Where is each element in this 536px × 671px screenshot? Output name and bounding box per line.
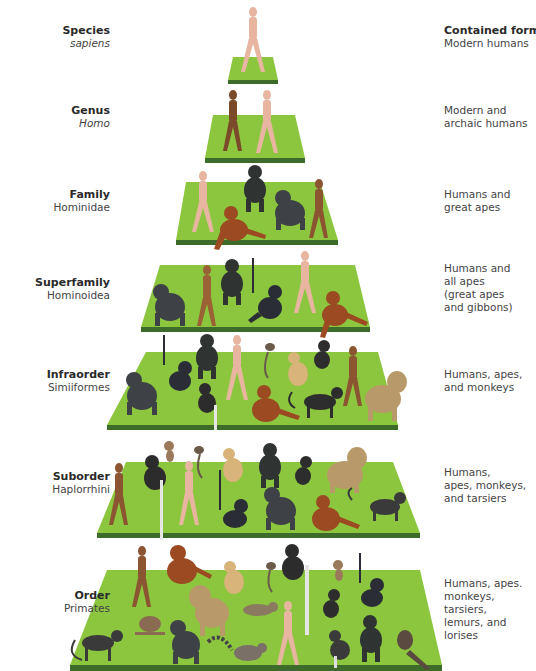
taxon-name: sapiens [0, 37, 110, 50]
contained-forms-species: Contained forms: Modern humans [444, 24, 536, 50]
platform-genus [205, 115, 305, 163]
rank-name: Suborder [0, 470, 110, 483]
taxon-name: Hominoidea [0, 289, 110, 302]
contained-forms-header: Contained forms: [444, 24, 536, 37]
taxon-name: Hominidae [0, 201, 110, 214]
taxonomy-pyramid-diagram: Species sapiens Genus Homo Family Homini… [0, 0, 536, 671]
contained-forms-superfamily: Humans and all apes (great apes and gibb… [444, 262, 536, 314]
howler-monkey-figure-icon [224, 561, 244, 594]
contained-forms-suborder: Humans, apes, monkeys, and tarsiers [444, 466, 536, 505]
pyramid-platforms [0, 0, 536, 671]
contained-forms-text: Humans, apes, monkeys, and tarsiers [444, 466, 536, 505]
taxon-name: Simiiformes [0, 381, 110, 394]
spider-monkey-figure-icon [314, 340, 330, 369]
taxon-name: Haplorrhini [0, 483, 110, 496]
contained-forms-order: Humans, apes. monkeys, tarsiers, lemurs,… [444, 577, 536, 642]
level-label-species: Species sapiens [0, 24, 110, 50]
rank-name: Species [0, 24, 110, 37]
rank-name: Genus [0, 104, 110, 117]
rank-name: Order [0, 589, 110, 602]
rank-name: Infraorder [0, 368, 110, 381]
level-label-family: Family Hominidae [0, 188, 110, 214]
level-label-infraorder: Infraorder Simiiformes [0, 368, 110, 394]
taxon-name: Primates [0, 602, 110, 615]
taxon-name: Homo [0, 117, 110, 130]
platform-species [228, 57, 278, 84]
howler-monkey-figure-icon [223, 448, 243, 482]
contained-forms-infraorder: Humans, apes, and monkeys [444, 368, 536, 394]
level-label-superfamily: Superfamily Hominoidea [0, 276, 110, 302]
contained-forms-text: Humans, apes, and monkeys [444, 368, 536, 394]
contained-forms-text: Humans and great apes [444, 188, 536, 214]
contained-forms-text: Humans, apes. monkeys, tarsiers, lemurs,… [444, 577, 536, 642]
tarsier-figure-icon [164, 441, 174, 462]
contained-forms-text: Humans and all apes (great apes and gibb… [444, 262, 536, 314]
rank-name: Superfamily [0, 276, 110, 289]
contained-forms-family: Humans and great apes [444, 188, 536, 214]
rank-name: Family [0, 188, 110, 201]
contained-forms-text: Modern and archaic humans [444, 104, 536, 130]
contained-forms-text: Modern humans [444, 37, 536, 50]
level-label-genus: Genus Homo [0, 104, 110, 130]
level-label-order: Order Primates [0, 589, 110, 615]
contained-forms-genus: Modern and archaic humans [444, 104, 536, 130]
level-label-suborder: Suborder Haplorrhini [0, 470, 110, 496]
